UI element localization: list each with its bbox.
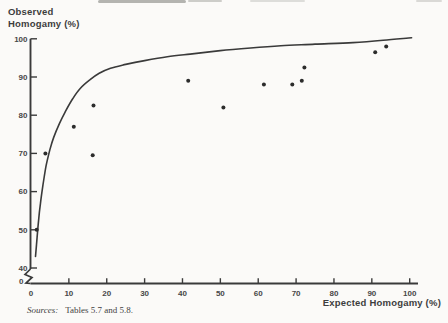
data-point	[221, 106, 225, 110]
data-point	[300, 79, 304, 83]
data-point	[373, 50, 377, 54]
sources-note: Sources:Tables 5.7 and 5.8.	[27, 305, 133, 315]
y-tick-label: 40	[19, 264, 28, 273]
y-tick-label: 60	[19, 187, 28, 196]
y-tick-label: 80	[19, 111, 28, 120]
x-axis-title: Expected Homogamy (%)	[323, 297, 441, 308]
x-tick-label: 40	[178, 289, 187, 298]
data-point	[262, 83, 266, 87]
data-point	[186, 79, 190, 83]
y-tick-label: 0	[19, 277, 24, 286]
data-point	[72, 125, 76, 129]
chart-canvas: 01020304050607080901000405060708090100	[0, 0, 448, 323]
x-tick-label: 0	[29, 289, 34, 298]
y-tick-label: 50	[19, 226, 28, 235]
data-point	[290, 83, 294, 87]
data-point	[92, 104, 96, 108]
x-tick-label: 20	[102, 289, 111, 298]
x-tick-label: 30	[140, 289, 149, 298]
x-tick-label: 70	[292, 289, 301, 298]
fitted-curve	[36, 38, 412, 257]
y-tick-label: 100	[14, 35, 28, 44]
sources-label: Sources:	[27, 305, 58, 315]
x-tick-label: 10	[64, 289, 73, 298]
x-tick-label: 60	[254, 289, 263, 298]
data-point	[384, 44, 388, 48]
y-tick-label: 90	[19, 73, 28, 82]
figure-page: Observed Homogamy (%) 010203040506070809…	[0, 0, 448, 323]
sources-text: Tables 5.7 and 5.8.	[65, 305, 133, 315]
data-point	[35, 228, 39, 232]
data-point	[91, 153, 95, 157]
data-point	[43, 151, 47, 155]
y-tick-label: 70	[19, 149, 28, 158]
data-point	[302, 65, 306, 69]
x-tick-label: 50	[216, 289, 225, 298]
